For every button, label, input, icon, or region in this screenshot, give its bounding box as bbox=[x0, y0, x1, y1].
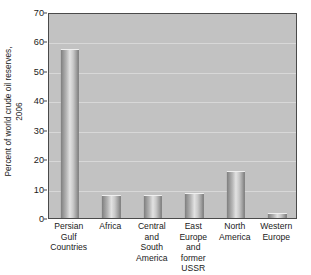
bar[interactable] bbox=[185, 193, 203, 218]
bar[interactable] bbox=[227, 171, 245, 218]
y-axis-title-line-2: 2006 bbox=[13, 46, 24, 176]
y-tick-label: 20 bbox=[34, 155, 44, 165]
y-tick-mark bbox=[44, 219, 47, 220]
y-axis-title-line-1: Percent of world crude oil reserves, bbox=[3, 46, 14, 176]
x-tick-label: North America bbox=[214, 221, 256, 242]
y-tick-label: 10 bbox=[34, 185, 44, 195]
y-tick-mark bbox=[44, 189, 47, 190]
plot-area bbox=[48, 13, 297, 219]
bars-layer bbox=[49, 14, 296, 218]
bar[interactable] bbox=[61, 49, 79, 218]
y-tick-label: 50 bbox=[34, 67, 44, 77]
bar[interactable] bbox=[268, 213, 286, 218]
x-tick-label: Africa bbox=[90, 221, 132, 232]
bar[interactable] bbox=[102, 195, 120, 218]
y-tick-label: 30 bbox=[34, 126, 44, 136]
x-tick-label: Central and South America bbox=[131, 221, 173, 263]
y-tick-mark bbox=[44, 160, 47, 161]
y-axis-title: Percent of world crude oil reserves, 200… bbox=[0, 0, 26, 222]
y-tick-mark bbox=[44, 101, 47, 102]
y-tick-label: 60 bbox=[34, 37, 44, 47]
bar-slot bbox=[257, 14, 299, 218]
y-tick-label: 70 bbox=[34, 8, 44, 18]
bar-chart: Percent of world crude oil reserves, 200… bbox=[0, 0, 311, 275]
y-tick-mark bbox=[44, 71, 47, 72]
bar[interactable] bbox=[144, 195, 162, 218]
x-tick-label: East Europe and former USSR bbox=[173, 221, 215, 274]
x-axis-tick-labels: Persian Gulf CountriesAfricaCentral and … bbox=[48, 221, 297, 275]
bar-slot bbox=[132, 14, 174, 218]
x-tick-label: Persian Gulf Countries bbox=[48, 221, 90, 253]
y-tick-mark bbox=[44, 130, 47, 131]
x-tick-label: Western Europe bbox=[256, 221, 298, 242]
y-tick-label: 40 bbox=[34, 96, 44, 106]
y-tick-mark bbox=[44, 13, 47, 14]
bar-slot bbox=[49, 14, 91, 218]
bar-slot bbox=[215, 14, 257, 218]
y-axis-tick-labels: 010203040506070 bbox=[26, 0, 47, 230]
bar-slot bbox=[174, 14, 216, 218]
y-tick-mark bbox=[44, 42, 47, 43]
bar-slot bbox=[91, 14, 133, 218]
